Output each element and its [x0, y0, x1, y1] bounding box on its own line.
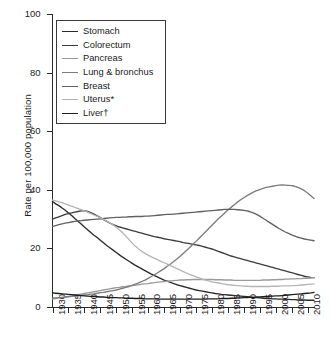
legend-item-label: Pancreas [83, 54, 122, 63]
legend-item-label: Colorectum [83, 41, 131, 50]
legend-item-label: Stomach [83, 27, 120, 36]
legend-line-swatch-icon [62, 113, 78, 114]
legend-line-swatch-icon [62, 72, 78, 73]
series-line-colorectum [53, 211, 315, 278]
chart-legend: StomachColorectumPancreasLung & bronchus… [56, 20, 166, 124]
series-line-stomach [53, 202, 315, 301]
legend-line-swatch-icon [62, 86, 78, 87]
legend-item: Stomach [62, 25, 160, 39]
legend-item-label: Lung & bronchus [83, 68, 153, 77]
legend-item: Uterus* [62, 93, 160, 107]
legend-item: Liver† [62, 107, 160, 121]
legend-line-swatch-icon [62, 99, 78, 100]
legend-line-swatch-icon [62, 31, 78, 32]
legend-item: Breast [62, 79, 160, 93]
legend-item: Pancreas [62, 52, 160, 66]
legend-line-swatch-icon [62, 58, 78, 59]
legend-item-label: Breast [83, 82, 110, 91]
legend-line-swatch-icon [62, 45, 78, 46]
legend-item-label: Liver† [83, 109, 108, 118]
legend-item-label: Uterus* [83, 95, 114, 104]
series-line-lung-bronchus [53, 185, 315, 298]
legend-item: Lung & bronchus [62, 66, 160, 80]
legend-item: Colorectum [62, 39, 160, 53]
chart-figure: Rate per 100,000 population 020406080100… [0, 0, 330, 349]
